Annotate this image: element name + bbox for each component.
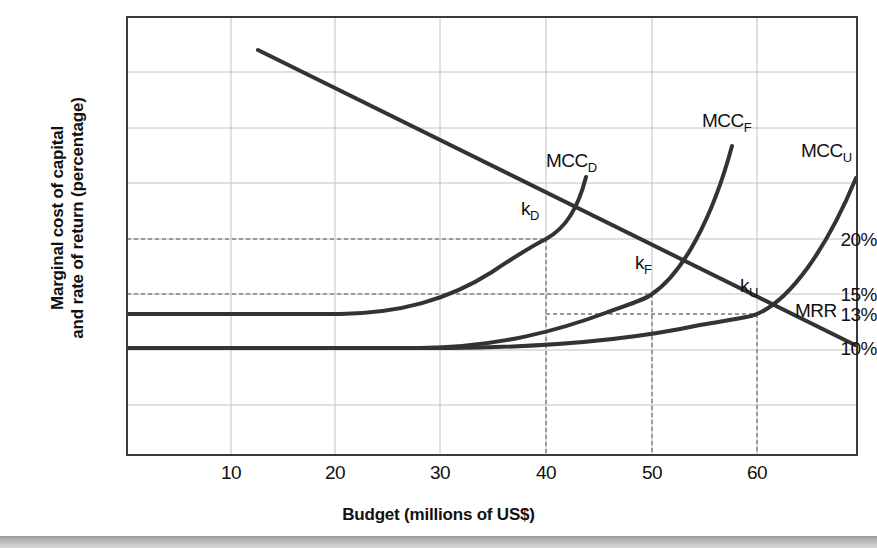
mcc-d-label-text: MCC [546, 150, 588, 171]
mcc-u-label-sub: U [843, 150, 852, 165]
mcc-f-label: MCCF [702, 110, 751, 135]
x-axis-title: Budget (millions of US$) [0, 505, 877, 525]
y-axis-title: Marginal cost of capital and rate of ret… [48, 18, 88, 418]
mcc-d-label: MCCD [546, 150, 597, 175]
k-d-label-text: k [521, 198, 530, 219]
x-tick-10: 10 [206, 462, 256, 484]
x-tick-30: 30 [415, 462, 465, 484]
mcc-u-label-text: MCC [801, 140, 843, 161]
k-d-label: kD [521, 198, 539, 223]
k-u-label-sub: U [749, 285, 758, 300]
y-tick-10: 10% [759, 338, 877, 360]
k-f-label-text: k [635, 252, 644, 273]
k-f-label: kF [635, 252, 651, 277]
x-tick-50: 50 [627, 462, 677, 484]
k-u-label-text: k [740, 275, 749, 296]
plot-background [127, 17, 857, 455]
k-d-label-sub: D [530, 208, 539, 223]
x-tick-60: 60 [732, 462, 782, 484]
mrr-label: MRR [795, 300, 837, 322]
mcc-u-label: MCCU [801, 140, 852, 165]
k-f-label-sub: F [644, 262, 651, 277]
figure-root: Marginal cost of capital and rate of ret… [0, 0, 877, 548]
y-tick-20: 20% [759, 229, 877, 251]
mcc-d-label-sub: D [588, 160, 597, 175]
mcc-f-label-sub: F [744, 120, 751, 135]
x-tick-20: 20 [310, 462, 360, 484]
x-tick-40: 40 [521, 462, 571, 484]
footer-bar [0, 536, 877, 548]
k-u-label: kU [740, 275, 758, 300]
mcc-f-label-text: MCC [702, 110, 744, 131]
